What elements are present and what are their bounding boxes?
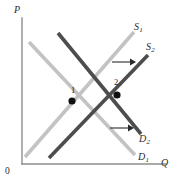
equilibrium-label-1: 1 xyxy=(71,86,75,95)
equilibrium-dot-2 xyxy=(113,91,120,98)
supply-curve-s1-label: S1 xyxy=(134,22,143,32)
d2-subscript-text: 2 xyxy=(147,138,151,146)
demand-curve-d1-label: D1 xyxy=(138,152,149,162)
s1-subscript-text: 1 xyxy=(139,26,143,34)
supply-curve-s2-label: S2 xyxy=(146,42,155,52)
supply-demand-figure: P Q 0 S1 S2 D2 D1 1 2 xyxy=(0,0,182,187)
y-axis-label: P xyxy=(14,5,20,15)
demand-curve-d1 xyxy=(29,42,135,155)
d1-base-text: D xyxy=(138,151,145,162)
equilibrium-dot-1 xyxy=(68,97,75,104)
d2-base-text: D xyxy=(139,133,146,144)
equilibrium-label-2: 2 xyxy=(114,78,118,87)
origin-label: 0 xyxy=(5,167,10,177)
d1-subscript-text: 1 xyxy=(146,156,150,164)
supply-shift-arrow xyxy=(112,59,136,66)
demand-curve-d2-label: D2 xyxy=(139,134,150,144)
figure-canvas xyxy=(0,0,182,187)
s2-subscript-text: 2 xyxy=(151,46,155,54)
x-axis-label: Q xyxy=(161,158,168,168)
